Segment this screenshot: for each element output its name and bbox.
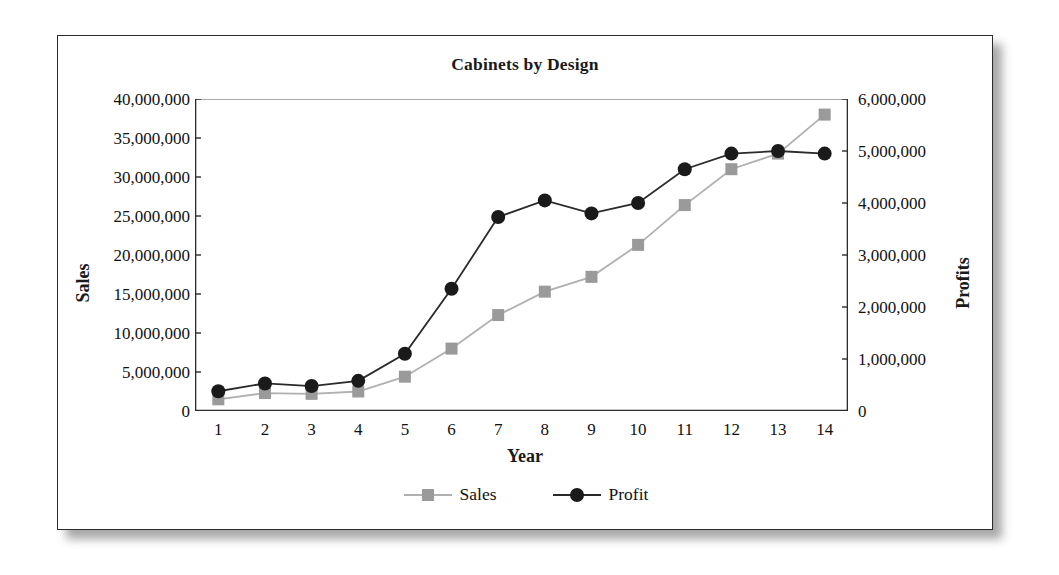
legend-label-sales: Sales xyxy=(460,484,497,505)
x-axis-tick-label: 1 xyxy=(214,421,223,438)
data-point-sales xyxy=(492,309,504,321)
x-axis-tick-label: 2 xyxy=(261,421,270,438)
data-point-profit xyxy=(771,144,785,158)
x-axis-tick-label: 9 xyxy=(587,421,596,438)
y-axis-right-tick-label: 0 xyxy=(858,403,867,420)
data-point-sales xyxy=(679,199,691,211)
legend-label-profit: Profit xyxy=(609,484,649,505)
chart-legend: SalesProfit xyxy=(58,484,992,505)
y-axis-right-tick-label: 5,000,000 xyxy=(858,143,926,160)
y-axis-left-tick-label: 20,000,000 xyxy=(114,247,191,264)
data-point-sales xyxy=(446,343,458,355)
chart-title: Cabinets by Design xyxy=(58,54,992,75)
data-point-profit xyxy=(538,193,552,207)
data-point-profit xyxy=(351,374,365,388)
y-axis-left-tick-label: 25,000,000 xyxy=(114,208,191,225)
x-axis-tick-label: 14 xyxy=(816,421,833,438)
x-axis-tick-labels: 1234567891011121314 xyxy=(195,421,848,445)
y-axis-left-title: Sales xyxy=(73,263,94,302)
x-axis-tick-label: 10 xyxy=(630,421,647,438)
data-point-profit xyxy=(631,196,645,210)
x-axis-tick-label: 8 xyxy=(541,421,550,438)
data-point-profit xyxy=(305,379,319,393)
x-axis-tick-label: 4 xyxy=(354,421,363,438)
x-axis-tick-label: 5 xyxy=(401,421,410,438)
data-point-profit xyxy=(445,282,459,296)
data-point-sales xyxy=(725,163,737,175)
y-axis-left-tick-label: 0 xyxy=(182,403,191,420)
data-point-sales xyxy=(632,239,644,251)
data-point-profit xyxy=(211,384,225,398)
legend-item-profit[interactable]: Profit xyxy=(551,484,649,505)
y-axis-left-tick-label: 10,000,000 xyxy=(114,325,191,342)
y-axis-right-tick-label: 2,000,000 xyxy=(858,299,926,316)
legend-marker-sales xyxy=(402,486,454,504)
y-axis-left-tick-label: 5,000,000 xyxy=(122,364,190,381)
data-point-sales xyxy=(819,109,831,121)
data-point-profit xyxy=(818,147,832,161)
data-point-profit xyxy=(724,147,738,161)
y-axis-right-tick-label: 3,000,000 xyxy=(858,247,926,264)
data-point-profit xyxy=(258,376,272,390)
data-point-sales xyxy=(399,371,411,383)
x-axis-tick-label: 11 xyxy=(677,421,693,438)
y-axis-right-tick-label: 6,000,000 xyxy=(858,91,926,108)
data-point-profit xyxy=(491,210,505,224)
x-axis-tick-label: 3 xyxy=(307,421,316,438)
x-axis-tick-label: 13 xyxy=(770,421,787,438)
legend-marker-profit xyxy=(551,486,603,504)
plot-svg xyxy=(195,99,848,411)
x-axis-title: Year xyxy=(58,446,992,467)
legend-item-sales[interactable]: Sales xyxy=(402,484,497,505)
data-point-profit xyxy=(584,206,598,220)
y-axis-left-tick-label: 30,000,000 xyxy=(114,169,191,186)
data-point-sales xyxy=(585,271,597,283)
chart-area: Cabinets by Design Sales Profits Year 05… xyxy=(58,36,992,529)
plot-region xyxy=(195,99,848,411)
y-axis-right-tick-label: 1,000,000 xyxy=(858,351,926,368)
x-axis-tick-label: 6 xyxy=(447,421,456,438)
y-axis-left-tick-label: 35,000,000 xyxy=(114,130,191,147)
y-axis-left-tick-label: 15,000,000 xyxy=(114,286,191,303)
y-axis-left-tick-label: 40,000,000 xyxy=(114,91,191,108)
data-point-profit xyxy=(678,162,692,176)
chart-figure-frame: Cabinets by Design Sales Profits Year 05… xyxy=(57,35,993,530)
y-axis-right-tick-labels: 01,000,0002,000,0003,000,0004,000,0005,0… xyxy=(858,99,968,411)
series-line-profit xyxy=(218,151,824,391)
data-point-profit xyxy=(398,347,412,361)
y-axis-left-tick-labels: 05,000,00010,000,00015,000,00020,000,000… xyxy=(98,99,190,411)
x-axis-tick-label: 12 xyxy=(723,421,740,438)
y-axis-right-tick-label: 4,000,000 xyxy=(858,195,926,212)
x-axis-tick-label: 7 xyxy=(494,421,503,438)
data-point-sales xyxy=(539,286,551,298)
